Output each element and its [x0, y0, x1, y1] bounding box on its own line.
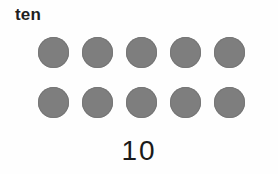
- counter-dot: [82, 87, 113, 118]
- counter-dot: [170, 37, 201, 68]
- counting-flashcard: ten 10: [0, 0, 278, 174]
- dot-row: [38, 37, 256, 68]
- number-word-label: ten: [15, 4, 41, 26]
- counter-dot: [214, 37, 245, 68]
- counter-dot: [126, 87, 157, 118]
- counter-dot: [82, 37, 113, 68]
- counter-dot: [38, 87, 69, 118]
- dot-row: [38, 87, 256, 118]
- counter-dot: [170, 87, 201, 118]
- counter-dot: [214, 87, 245, 118]
- dot-grid: [38, 37, 256, 118]
- numeral-label: 10: [0, 136, 278, 166]
- counter-dot: [38, 37, 69, 68]
- counter-dot: [126, 37, 157, 68]
